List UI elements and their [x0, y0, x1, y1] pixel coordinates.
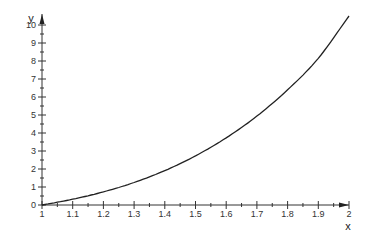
- x-axis: 11.11.21.31.41.51.61.71.81.92: [39, 201, 351, 219]
- x-tick-label: 1: [39, 209, 44, 219]
- y-arrow-icon: [40, 14, 45, 24]
- y-tick-label: 0: [31, 200, 36, 210]
- y-tick-label: 7: [31, 74, 36, 84]
- x-arrow-icon: [339, 203, 349, 208]
- y-tick-label: 6: [31, 92, 36, 102]
- x-tick-label: 1.7: [251, 209, 264, 219]
- x-tick-label: 1.1: [66, 209, 79, 219]
- x-tick-label: 1.2: [97, 209, 110, 219]
- x-tick-label: 1.8: [281, 209, 294, 219]
- data-line: [42, 16, 349, 205]
- x-tick-label: 1.6: [220, 209, 233, 219]
- y-tick-label: 5: [31, 110, 36, 120]
- y-tick-label: 3: [31, 146, 36, 156]
- y-axis: 012345678910: [26, 14, 46, 210]
- y-tick-label: 9: [31, 38, 36, 48]
- plot-area: [42, 16, 349, 205]
- line-chart: 012345678910 11.11.21.31.41.51.61.71.81.…: [0, 0, 371, 242]
- x-tick-label: 1.4: [159, 209, 172, 219]
- x-tick-label: 1.9: [312, 209, 325, 219]
- y-tick-label: 8: [31, 56, 36, 66]
- y-axis-label: y: [28, 12, 34, 24]
- x-axis-label: x: [345, 220, 351, 232]
- x-tick-label: 1.5: [189, 209, 202, 219]
- x-tick-label: 1.3: [128, 209, 141, 219]
- x-tick-label: 2: [346, 209, 351, 219]
- y-tick-label: 1: [31, 182, 36, 192]
- y-tick-label: 2: [31, 164, 36, 174]
- y-tick-label: 4: [31, 128, 36, 138]
